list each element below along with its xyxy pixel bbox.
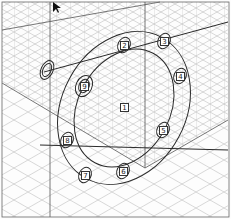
mouse-cursor-icon — [53, 2, 61, 14]
center-label: 1 — [120, 103, 129, 112]
isometric-diagram: 1 2 3 4 5 6 7 8 9 — [0, 0, 231, 219]
grid-walls — [2, 2, 229, 217]
bolt-label-9: 9 — [80, 82, 89, 91]
bolt-label-4: 4 — [176, 72, 185, 81]
bolt-label-3: 3 — [160, 37, 169, 46]
bolt-label-2: 2 — [120, 41, 129, 50]
bolt-label-8: 8 — [63, 136, 72, 145]
diagram-canvas — [0, 0, 231, 219]
bolt-label-6: 6 — [119, 167, 128, 176]
bolt-label-7: 7 — [81, 171, 90, 180]
bolt-label-5: 5 — [159, 126, 168, 135]
